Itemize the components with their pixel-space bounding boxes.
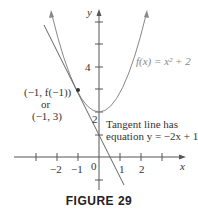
parabola-left-arrow-icon [49,10,54,18]
point-label-or: or [41,98,50,110]
function-label: f(x) = x² + 2 [136,55,191,67]
tangent-point [76,88,80,92]
tangent-label-2: equation y = −2x + 1. [106,130,198,142]
x-tick-label-1: 1 [119,163,125,175]
parabola-right-arrow-icon [144,10,149,18]
x-axis-label: x [180,160,185,172]
point-label-1: (−1, f(−1)) [24,86,71,98]
point-label-2: (−1, 3) [32,110,62,122]
figure-caption: FIGURE 29 [0,194,198,208]
y-tick-label-4: 4 [85,61,91,73]
x-axis-arrow-icon [179,155,186,160]
x-tick-label-m2: −2 [50,163,62,175]
y-axis-label: y [87,6,92,18]
y-axis-arrow-icon [97,9,102,16]
tangent-label-1: Tangent line has [106,118,178,130]
chart [0,0,198,212]
x-tick-label-2: 2 [139,163,145,175]
x-tick-label-m1: −1 [71,163,83,175]
x-tick-label-0: 0 [91,160,97,172]
y-tick-label-2: 2 [92,113,98,125]
